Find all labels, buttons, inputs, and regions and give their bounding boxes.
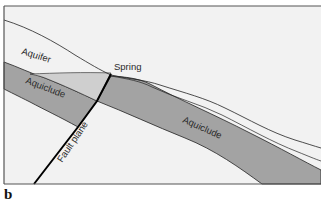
panel-label: b [4, 186, 12, 201]
geologic-cross-section: Aquifer Spring Aquiclude Aquiclude Fault… [0, 0, 321, 201]
label-spring: Spring [114, 61, 141, 72]
